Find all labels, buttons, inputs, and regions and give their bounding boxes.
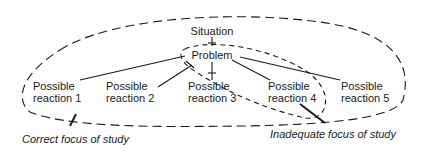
reaction-5-line2: reaction 5 bbox=[341, 92, 389, 104]
reaction-4-line1: Possible bbox=[268, 80, 310, 92]
focus-of-study-diagram: Situation Problem Possible reaction 1 Po… bbox=[0, 0, 423, 152]
link-reaction-5 bbox=[240, 57, 340, 80]
inadequate-focus-pointer bbox=[300, 104, 325, 123]
inadequate-focus-caption: Inadequate focus of study bbox=[270, 128, 397, 140]
reaction-4-line2: reaction 4 bbox=[268, 92, 316, 104]
cross-mark bbox=[186, 61, 194, 68]
reaction-5-line1: Possible bbox=[341, 80, 383, 92]
link-reaction-1 bbox=[80, 56, 185, 80]
problem-label: Problem bbox=[192, 49, 233, 61]
reaction-3-line2: reaction 3 bbox=[188, 92, 236, 104]
correct-focus-pointer bbox=[70, 114, 76, 126]
situation-label: Situation bbox=[191, 25, 234, 37]
correct-focus-caption: Correct focus of study bbox=[22, 133, 130, 145]
reaction-1-line2: reaction 1 bbox=[33, 92, 81, 104]
link-reaction-2 bbox=[158, 65, 192, 87]
reaction-1-line1: Possible bbox=[33, 80, 75, 92]
reaction-2-line2: reaction 2 bbox=[106, 92, 154, 104]
reaction-3-line1: Possible bbox=[188, 80, 230, 92]
reaction-2-line1: Possible bbox=[106, 80, 148, 92]
